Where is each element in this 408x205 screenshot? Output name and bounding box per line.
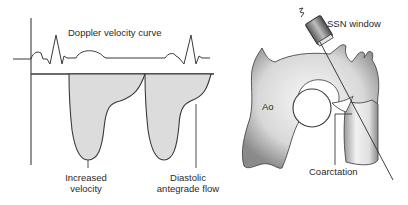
diagram-canvas: Doppler velocity curve Increased velocit…: [0, 0, 408, 205]
probe-cable: [299, 8, 304, 17]
increased-velocity-label-line1: Increased: [65, 172, 107, 183]
diastolic-flow-label-line2: antegrade flow: [157, 183, 219, 194]
doppler-coarctation-diagram: Doppler velocity curve Increased velocit…: [0, 0, 408, 205]
systolic-envelope-1: [69, 74, 145, 160]
diastolic-flow-label-line1: Diastolic: [170, 172, 206, 183]
systolic-envelope-2: [145, 74, 211, 160]
doppler-panel: Doppler velocity curve Increased velocit…: [13, 18, 219, 194]
aorta-label: Ao: [262, 101, 274, 112]
anatomy-panel: SSN window Ao Coarctation: [242, 8, 393, 180]
probe-label: SSN window: [327, 18, 381, 29]
coarctation-label: Coarctation: [309, 166, 358, 177]
descending-aorta: [344, 100, 378, 165]
ecg-trace: [13, 35, 210, 64]
doppler-title: Doppler velocity curve: [68, 27, 161, 38]
increased-velocity-label-line2: velocity: [70, 183, 102, 194]
pulmonary-artery: [293, 89, 331, 127]
